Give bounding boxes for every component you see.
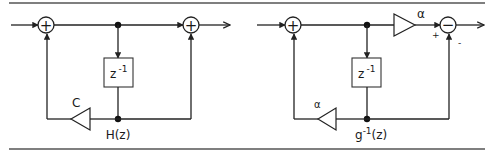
sum-node-3-symbol: + xyxy=(287,17,300,35)
delay-exponent: -1 xyxy=(119,64,128,74)
minus-sign: - xyxy=(458,38,461,48)
block-diagram: + z -1 C + H(z) xyxy=(0,0,492,155)
sum-node-2-symbol: + xyxy=(185,17,198,35)
sum-node-1-symbol: + xyxy=(40,17,53,35)
right-diagram: + z -1 α + − - α xyxy=(257,7,484,142)
subtract-node: − xyxy=(440,16,456,34)
forward-gain-label: α xyxy=(417,7,425,21)
transfer-function-label: H(z) xyxy=(106,128,131,142)
inverse-transfer-function-label: g-1(z) xyxy=(355,126,387,142)
feedback-gain-alpha: α xyxy=(314,99,336,130)
feedback-gain-alpha-label: α xyxy=(314,99,321,110)
plus-sign: + xyxy=(432,30,440,40)
subtract-node-symbol: − xyxy=(442,16,455,34)
delay-block: z -1 xyxy=(104,58,133,87)
forward-gain-alpha: α xyxy=(394,7,425,36)
delay-label-2: z xyxy=(358,67,364,81)
feedback-gain-c: C xyxy=(71,96,90,130)
delay-exponent-2: -1 xyxy=(367,64,376,74)
delay-label: z xyxy=(110,67,116,81)
sum-node-1: + xyxy=(38,17,54,35)
sum-node-2: + xyxy=(183,17,199,35)
left-diagram: + z -1 C + H(z) xyxy=(11,17,230,143)
sum-node-3: + xyxy=(285,17,301,35)
gain-c-label: C xyxy=(72,96,80,110)
delay-block-2: z -1 xyxy=(352,58,381,87)
